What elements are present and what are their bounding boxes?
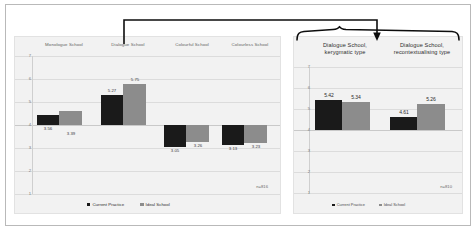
sample-size-note-left: n=816 (256, 185, 268, 189)
gridline-5 (15, 102, 280, 103)
category-label-line2: recontextualising type (394, 49, 451, 55)
gridline-2 (294, 172, 462, 173)
gridline-1 (294, 193, 462, 194)
value-label-ideal-colourful: 3.26 (183, 144, 213, 148)
value-label-current-kerygmatic: 5.42 (314, 93, 344, 98)
legend-item-ideal-school: Ideal School (140, 203, 170, 207)
category-label-dialogue-recontextualising: Dialogue School, recontextualising type (382, 42, 462, 56)
category-label-line1: Dialogue School, (323, 42, 367, 48)
legend-swatch-icon (379, 204, 382, 207)
category-label-line1: Dialogue School, (400, 42, 444, 48)
bar-ideal-colourful (186, 125, 209, 142)
y-tick-label: 6 (15, 77, 31, 81)
value-label-current-colourful: 3.05 (160, 149, 190, 153)
y-tick-label: 2 (294, 170, 310, 174)
y-tick-label: 3 (294, 149, 310, 153)
category-label-dialogue-kerygmatic: Dialogue School, kerygmatic type (307, 42, 383, 56)
bar-current-kerygmatic (315, 100, 342, 130)
value-label-current-recontextualising: 4.61 (389, 110, 419, 115)
gridline-3 (294, 151, 462, 152)
category-label-colourless-school: Colourless School (218, 42, 282, 48)
y-tick-label: 2 (15, 169, 31, 173)
y-tick-label: 5 (15, 100, 31, 104)
bar-current-dialogue (101, 95, 123, 125)
legend-label-current-practice: Current Practice (92, 203, 124, 207)
legend-left: Current Practice Ideal School (87, 203, 170, 207)
legend-label-ideal-school: Ideal School (146, 203, 170, 207)
gridline-1 (15, 194, 280, 195)
category-label-monologue-school: Monologue School (33, 42, 95, 48)
gridline-7 (15, 56, 280, 57)
gridline-2 (15, 171, 280, 172)
value-label-current-monologue: 3.56 (33, 127, 63, 131)
value-label-ideal-colourless: 3.23 (241, 145, 271, 149)
figure-root: 7 6 5 4 3 2 1 Monologue School Dialogue … (0, 0, 476, 240)
y-tick-label: 6 (294, 86, 310, 90)
legend-swatch-icon (332, 204, 335, 207)
value-label-ideal-kerygmatic: 5.34 (341, 95, 371, 100)
value-label-ideal-dialogue: 5.75 (120, 78, 150, 82)
y-tick-label: 3 (15, 146, 31, 150)
y-tick-label: 4 (15, 123, 31, 127)
category-label-line2: kerygmatic type (325, 49, 366, 55)
caption-strip (5, 228, 471, 238)
category-label-dialogue-school: Dialogue School (97, 42, 159, 48)
bar-current-monologue (37, 115, 59, 125)
legend-item-ideal-school: Ideal School (379, 203, 405, 207)
chart-panel-right: 7 6 5 4 3 2 1 Dialogue School, kerygmati… (293, 36, 463, 214)
bar-ideal-colourless (244, 125, 267, 143)
legend-item-current-practice: Current Practice (87, 203, 124, 207)
gridline-4-baseline (294, 130, 462, 131)
legend-swatch-icon (140, 203, 143, 206)
y-tick-label: 1 (15, 192, 31, 196)
legend-label-current-practice: Current Practice (337, 203, 365, 207)
bar-current-colourless (222, 125, 244, 145)
gridline-7 (294, 67, 462, 68)
y-axis-spine (32, 56, 33, 194)
legend-right: Current Practice Ideal School (332, 203, 405, 207)
value-label-ideal-monologue: 3.39 (56, 132, 86, 136)
legend-label-ideal-school: Ideal School (384, 203, 405, 207)
gridline-6 (294, 88, 462, 89)
y-tick-label: 5 (294, 107, 310, 111)
bar-ideal-kerygmatic (342, 102, 370, 130)
legend-item-current-practice: Current Practice (332, 203, 365, 207)
value-label-current-dialogue: 5.27 (97, 89, 127, 93)
category-label-colourful-school: Colourful School (161, 42, 223, 48)
bar-ideal-monologue (59, 111, 82, 125)
sample-size-note-right: n=810 (440, 185, 452, 189)
y-tick-label: 4 (294, 128, 310, 132)
y-tick-label: 7 (15, 54, 31, 58)
legend-swatch-icon (87, 203, 90, 206)
value-label-ideal-recontextualising: 5.26 (416, 97, 446, 102)
chart-panel-left: 7 6 5 4 3 2 1 Monologue School Dialogue … (14, 36, 281, 214)
y-tick-label: 1 (294, 191, 310, 195)
bar-current-recontextualising (390, 117, 417, 130)
bar-ideal-recontextualising (417, 104, 445, 130)
y-tick-label: 7 (294, 65, 310, 69)
